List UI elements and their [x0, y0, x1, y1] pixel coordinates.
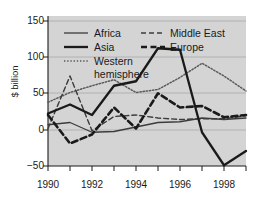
legend-label-western-hemisphere: Western — [94, 55, 133, 67]
legend-label-africa: Africa — [94, 27, 121, 39]
legend-label-western-hemisphere-line2: hemisphere — [94, 68, 149, 80]
legend-label-asia: Asia — [94, 41, 115, 53]
chart-container: $ billion 150 100 50 0 −50 1990 1992 199… — [0, 0, 260, 204]
legend-label-europe: Europe — [170, 41, 204, 53]
x-axis-ticks — [48, 166, 246, 171]
y-axis-ticks — [43, 21, 48, 166]
chart-svg: Africa Middle East Asia Europe Western h… — [0, 0, 260, 204]
legend-label-middle-east: Middle East — [170, 27, 225, 39]
